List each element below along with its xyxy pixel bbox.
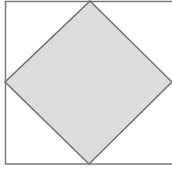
square-diamond-diagram xyxy=(0,0,172,171)
diagram-canvas xyxy=(0,0,172,171)
